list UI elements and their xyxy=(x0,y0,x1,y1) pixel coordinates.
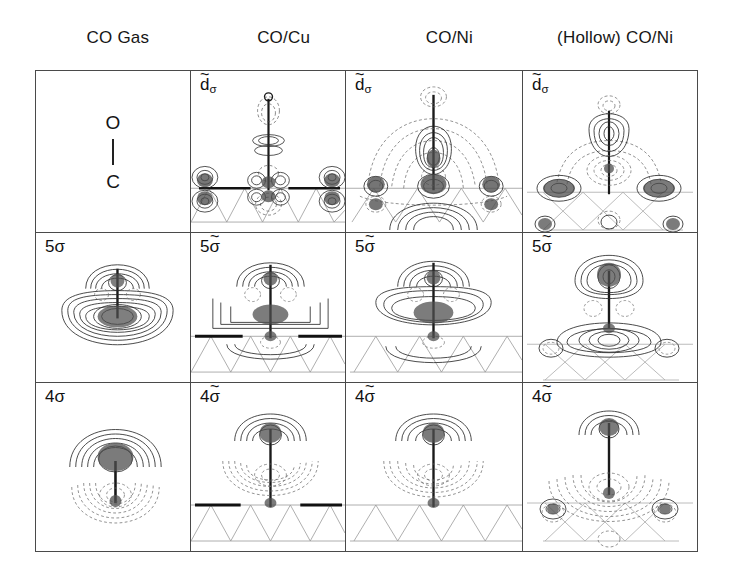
column-header-row: CO Gas CO/Cu CO/Ni (Hollow) CO/Ni xyxy=(35,28,698,62)
panel-co-ni-5-sigma: 5σ xyxy=(346,233,523,383)
panel-label-4-sigma: 4σ xyxy=(45,388,65,405)
substrate-lattice-icon xyxy=(191,336,345,372)
panel-label-5-sigma: 5σ xyxy=(45,238,65,255)
panel-label-d-sigma: dσ xyxy=(355,76,372,95)
panel-co-gas-molecule: O C xyxy=(36,71,191,233)
panel-label-4-sigma-tilde: 4σ xyxy=(532,388,552,405)
panel-hollow-co-ni-4-sigma: 4σ xyxy=(523,383,697,551)
panel-label-d-sigma: dσ xyxy=(200,76,217,95)
panel-co-ni-4-sigma: 4σ xyxy=(346,383,523,551)
panel-co-cu-4-sigma: 4σ xyxy=(191,383,346,551)
panel-hollow-co-ni-d-sigma: dσ xyxy=(523,71,697,233)
contour-plot-grid: O C dσ xyxy=(35,70,698,552)
column-header-co-cu: CO/Cu xyxy=(201,28,367,62)
panel-label-5-sigma-tilde: 5σ xyxy=(355,238,375,255)
contour-plot-gas-4-sigma xyxy=(36,383,190,551)
panel-co-gas-4-sigma: 4σ xyxy=(36,383,191,551)
column-header-co-gas: CO Gas xyxy=(35,28,201,62)
panel-label-4-sigma-tilde: 4σ xyxy=(200,388,220,405)
atom-label-carbon: C xyxy=(106,172,120,191)
contour-plot-cu-4-sigma xyxy=(191,383,345,551)
panel-co-cu-d-sigma: dσ xyxy=(191,71,346,233)
molecular-orbital-figure: CO Gas CO/Cu CO/Ni (Hollow) CO/Ni O C dσ xyxy=(0,0,732,575)
contour-plot-cu-d-sigma xyxy=(191,71,345,232)
panel-label-d-sigma: dσ xyxy=(532,76,549,95)
column-header-hollow-co-ni: (Hollow) CO/Ni xyxy=(532,28,698,62)
contour-plot-ni-4-sigma xyxy=(346,383,522,551)
contour-plot-ni-d-sigma xyxy=(346,71,522,232)
panel-label-5-sigma-tilde: 5σ xyxy=(532,238,552,255)
atom-label-oxygen: O xyxy=(106,113,121,132)
panel-co-gas-5-sigma: 5σ xyxy=(36,233,191,383)
column-header-co-ni: CO/Ni xyxy=(367,28,533,62)
substrate-lattice-icon xyxy=(346,505,522,541)
co-bond-line xyxy=(112,139,114,165)
panel-label-5-sigma-tilde: 5σ xyxy=(200,238,220,255)
panel-label-4-sigma-tilde: 4σ xyxy=(355,388,375,405)
panel-co-ni-d-sigma: dσ xyxy=(346,71,523,233)
substrate-lattice-icon xyxy=(191,505,345,541)
panel-hollow-co-ni-5-sigma: 5σ xyxy=(523,233,697,383)
co-molecule-schematic: O C xyxy=(36,71,190,232)
substrate-lattice-icon xyxy=(346,336,522,372)
contour-plot-hollow-4-sigma xyxy=(523,383,697,551)
contour-plot-hollow-d-sigma xyxy=(523,71,697,232)
panel-co-cu-5-sigma: 5σ xyxy=(191,233,346,383)
